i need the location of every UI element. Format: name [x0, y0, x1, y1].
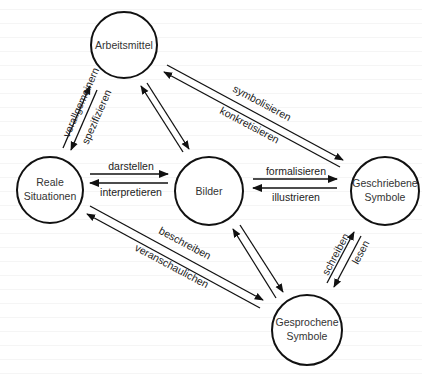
edge-label-illustrieren: illustrieren: [272, 191, 320, 203]
arrow-down: [240, 225, 283, 292]
node-arbeitsmittel: Arbeitsmittel: [91, 12, 157, 78]
node-label: Bilder: [196, 185, 223, 197]
edge-label-lesen: lesen: [349, 238, 371, 266]
node-reale-situationen: Reale Situationen: [17, 157, 83, 223]
edge-reale-gesprochen: beschreiben veranschaulichen: [87, 206, 263, 308]
node-label: Symbole: [365, 191, 406, 203]
node-label: Reale: [36, 176, 64, 188]
node-bilder: Bilder: [175, 157, 243, 225]
edge-label-formalisieren: formalisieren: [266, 165, 326, 177]
node-label: Gesprochene: [275, 316, 338, 328]
arrow-forward: [90, 206, 263, 300]
diagram-canvas: Arbeitsmittel Reale Situationen Bilder G…: [0, 0, 422, 375]
node-label: Situationen: [24, 190, 77, 202]
arrow-forward: [167, 65, 343, 160]
node-geschriebene-symbole: Geschriebene Symbole: [351, 157, 419, 225]
edge-label-darstellen: darstellen: [108, 160, 154, 172]
node-label: Arbeitsmittel: [95, 39, 153, 51]
node-gesprochene-symbole: Gesprochene Symbole: [272, 295, 342, 365]
arrow-down: [147, 83, 189, 149]
edge-arbeitsmittel-geschrieben: symbolisieren konkretisieren: [164, 65, 343, 167]
edge-reale-arbeitsmittel: verallgemeinern spezifizieren: [60, 66, 114, 150]
edge-label-schreiben: schreiben: [319, 231, 351, 277]
edge-arbeitsmittel-bilder: [141, 83, 189, 152]
edge-label-interpretieren: interpretieren: [100, 186, 162, 198]
edge-bilder-geschrieben: formalisieren illustrieren: [253, 165, 337, 203]
edge-gesprochen-geschrieben: schreiben lesen: [319, 231, 371, 287]
node-label: Symbole: [287, 330, 328, 342]
node-label: Geschriebene: [352, 177, 418, 189]
arrow-up: [141, 86, 183, 152]
edge-reale-bilder: darstellen interpretieren: [90, 160, 168, 198]
